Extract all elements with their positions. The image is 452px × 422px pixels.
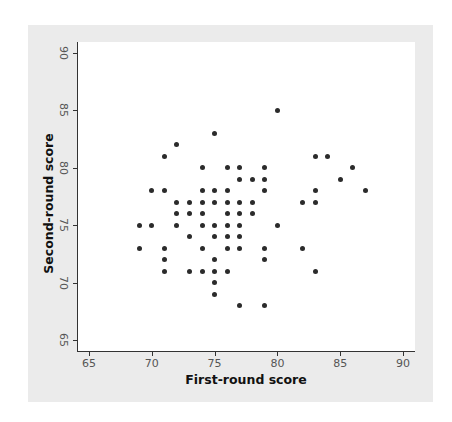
data-point [162, 257, 167, 262]
data-point [250, 211, 255, 216]
data-point [225, 188, 230, 193]
data-point [225, 234, 230, 239]
data-point [212, 131, 217, 136]
x-tick-label: 90 [388, 357, 418, 370]
data-point [200, 269, 205, 274]
y-tick-label: 75 [56, 210, 70, 240]
x-tick-mark [403, 352, 404, 356]
data-point [325, 154, 330, 159]
y-tick-label: 80 [56, 153, 70, 183]
data-point [225, 269, 230, 274]
data-point [313, 200, 318, 205]
x-tick-mark [215, 352, 216, 356]
y-tick-mark [73, 340, 77, 341]
x-tick-mark [277, 352, 278, 356]
data-point [237, 177, 242, 182]
y-axis-title: Second-round score [41, 104, 56, 304]
data-point [200, 246, 205, 251]
data-point [225, 165, 230, 170]
y-tick-label: 90 [56, 38, 70, 68]
x-tick-label: 65 [74, 357, 104, 370]
data-point [212, 200, 217, 205]
y-tick-label: 85 [56, 95, 70, 125]
data-point [237, 223, 242, 228]
x-tick-mark [152, 352, 153, 356]
data-point [237, 246, 242, 251]
data-point [162, 154, 167, 159]
data-point [250, 200, 255, 205]
data-point [200, 165, 205, 170]
data-point [137, 246, 142, 251]
data-point [137, 223, 142, 228]
data-point [162, 246, 167, 251]
data-point [225, 200, 230, 205]
plot-area [77, 42, 415, 351]
data-point [225, 223, 230, 228]
y-tick-mark [73, 168, 77, 169]
data-point [200, 211, 205, 216]
data-point [237, 200, 242, 205]
data-point [162, 269, 167, 274]
x-axis-line [77, 351, 415, 352]
data-point [200, 188, 205, 193]
x-tick-mark [340, 352, 341, 356]
y-tick-mark [73, 110, 77, 111]
data-point [300, 200, 305, 205]
x-tick-label: 70 [137, 357, 167, 370]
x-tick-label: 85 [325, 357, 355, 370]
data-point [212, 269, 217, 274]
x-tick-label: 80 [262, 357, 292, 370]
data-point [338, 177, 343, 182]
y-axis-line [77, 42, 78, 352]
data-point [275, 223, 280, 228]
y-tick-mark [73, 53, 77, 54]
data-point [275, 108, 280, 113]
data-point [187, 200, 192, 205]
data-point [212, 292, 217, 297]
x-tick-mark [89, 352, 90, 356]
data-point [200, 200, 205, 205]
data-point [225, 246, 230, 251]
y-tick-label: 65 [56, 325, 70, 355]
data-point [300, 246, 305, 251]
data-point [313, 154, 318, 159]
y-tick-mark [73, 283, 77, 284]
x-axis-title: First-round score [77, 372, 415, 387]
y-tick-label: 70 [56, 268, 70, 298]
data-point [313, 188, 318, 193]
data-point [212, 223, 217, 228]
data-point [250, 177, 255, 182]
y-tick-mark [73, 225, 77, 226]
data-point [187, 269, 192, 274]
data-point [225, 211, 230, 216]
x-tick-label: 75 [200, 357, 230, 370]
data-point [313, 269, 318, 274]
data-point [200, 223, 205, 228]
